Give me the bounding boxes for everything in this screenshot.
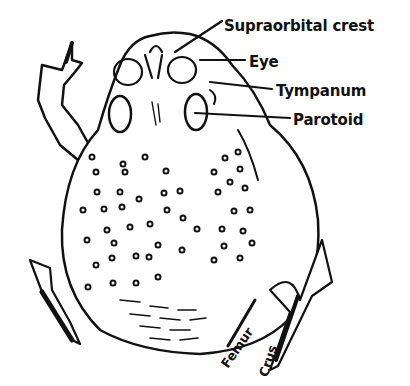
toad-illustration <box>0 0 410 386</box>
label-tympanum: Tympanum <box>276 82 366 100</box>
toad-anatomy-diagram: Supraorbital crest Eye Tympanum Parotoid… <box>0 0 410 386</box>
label-supraorbital-crest: Supraorbital crest <box>224 17 374 35</box>
label-parotoid: Parotoid <box>293 111 363 129</box>
label-eye: Eye <box>249 53 279 71</box>
